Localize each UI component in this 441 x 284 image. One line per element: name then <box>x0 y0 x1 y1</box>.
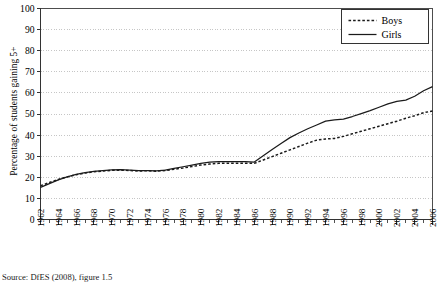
y-axis-tick-label: 30 <box>25 151 35 162</box>
x-axis-tick-label: 1992 <box>303 208 313 227</box>
x-axis-tick-label: 1990 <box>285 208 295 227</box>
x-axis-tick-label: 1974 <box>143 208 153 227</box>
y-axis-tick-label: 50 <box>25 108 35 119</box>
x-axis-tick-label: 1980 <box>196 208 206 227</box>
x-axis-tick-label: 2006 <box>428 208 438 227</box>
x-axis-tick-label: 1962 <box>36 208 46 227</box>
x-axis-tick-label: 1966 <box>72 208 82 227</box>
x-axis-tick-label: 1978 <box>178 208 188 227</box>
x-axis-tick-label: 1972 <box>125 208 135 227</box>
x-axis-tick-label: 1998 <box>357 208 367 227</box>
chart-legend: BoysGirls <box>342 10 429 44</box>
y-axis-tick-label: 60 <box>25 87 35 98</box>
y-axis-tick-label: 90 <box>25 24 35 35</box>
legend-label-girls: Girls <box>382 29 402 40</box>
x-axis-tick-label: 1988 <box>268 208 278 227</box>
line-chart-plot: 0102030405060708090100196219641966196819… <box>0 0 441 284</box>
x-axis-tick-label: 1982 <box>214 208 224 227</box>
x-axis-tick-label: 2004 <box>410 208 420 227</box>
x-axis-tick-label: 1994 <box>321 208 331 227</box>
x-axis-tick-label: 1984 <box>232 208 242 227</box>
x-axis-tick-label: 1964 <box>54 208 64 227</box>
x-axis-tick-label: 1996 <box>339 208 349 227</box>
x-axis-tick-label: 1976 <box>161 208 171 227</box>
y-axis-tick-label: 0 <box>30 214 35 225</box>
x-axis-tick-label: 1970 <box>107 208 117 227</box>
x-axis-tick-label: 2000 <box>374 208 384 227</box>
y-axis-tick-label: 40 <box>25 130 35 141</box>
chart-figure: Percentage of students gaining 5+ 010203… <box>0 0 441 284</box>
chart-source-caption: Source: DfES (2008), figure 1.5 <box>2 272 441 284</box>
x-axis-tick-label: 1986 <box>250 208 260 227</box>
y-axis-tick-label: 70 <box>25 66 35 77</box>
x-axis-tick-label: 1968 <box>89 208 99 227</box>
y-axis-tick-label: 10 <box>25 193 35 204</box>
legend-label-boys: Boys <box>382 15 403 26</box>
x-axis-tick-label: 2002 <box>392 208 402 227</box>
y-axis-tick-label: 80 <box>25 45 35 56</box>
y-axis-tick-label: 100 <box>20 3 35 14</box>
y-axis-tick-label: 20 <box>25 172 35 183</box>
